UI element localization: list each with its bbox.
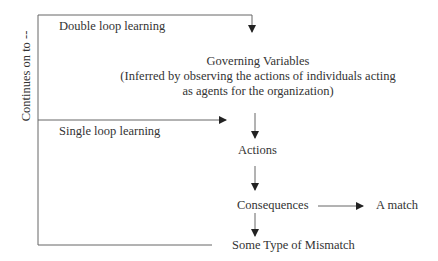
governing-variables-desc-2: as agents for the organization) bbox=[88, 84, 428, 99]
continues-on-to-label: Continues on to -- bbox=[19, 31, 34, 122]
a-match-node: A match bbox=[376, 198, 418, 213]
governing-variables-title: Governing Variables bbox=[88, 54, 428, 69]
mismatch-node: Some Type of Mismatch bbox=[232, 238, 355, 253]
actions-node: Actions bbox=[238, 143, 277, 158]
consequences-node: Consequences bbox=[237, 198, 309, 213]
double-loop-label: Double loop learning bbox=[59, 19, 165, 34]
governing-variables-desc-1: (Inferred by observing the actions of in… bbox=[78, 69, 438, 84]
single-loop-label: Single loop learning bbox=[59, 124, 160, 139]
